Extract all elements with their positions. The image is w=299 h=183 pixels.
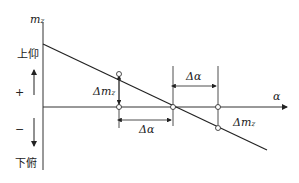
point <box>117 72 122 77</box>
minus-sign: − <box>15 124 24 135</box>
point <box>216 105 221 110</box>
point <box>216 126 221 131</box>
point <box>117 105 122 110</box>
delta-m-right-label: Δmz <box>233 117 255 128</box>
delta-m-left-label: Δmz <box>93 86 115 97</box>
y-axis-label: mz <box>30 14 44 25</box>
delta-alpha-bottom-label: Δα <box>139 124 154 135</box>
plus-sign: + <box>15 87 24 98</box>
stability-diagram <box>0 0 299 183</box>
point <box>171 105 176 110</box>
delta-alpha-top-label: Δα <box>186 71 201 82</box>
pitch-up-label: 上仰 <box>17 49 39 60</box>
x-axis-label: α <box>273 91 280 102</box>
pitch-down-label: 下俯 <box>15 158 37 169</box>
moment-line <box>43 44 267 150</box>
